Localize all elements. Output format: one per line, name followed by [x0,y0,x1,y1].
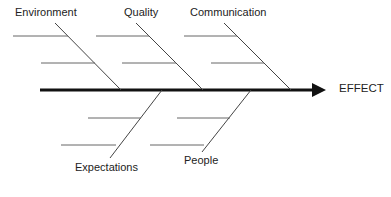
bone-quality [96,23,203,90]
effect-label: EFFECT [339,82,384,94]
category-label-people: People [184,154,218,166]
bone-environment [13,23,121,90]
category-label-expectations: Expectations [75,161,138,173]
bone-expectations [61,90,162,158]
fishbone-diagram [0,0,391,197]
arrowhead-icon [312,83,326,97]
bone-people [150,90,251,152]
category-label-environment: Environment [15,6,77,18]
category-label-communication: Communication [190,6,266,18]
category-label-quality: Quality [124,6,158,18]
bone-communication [184,23,291,90]
